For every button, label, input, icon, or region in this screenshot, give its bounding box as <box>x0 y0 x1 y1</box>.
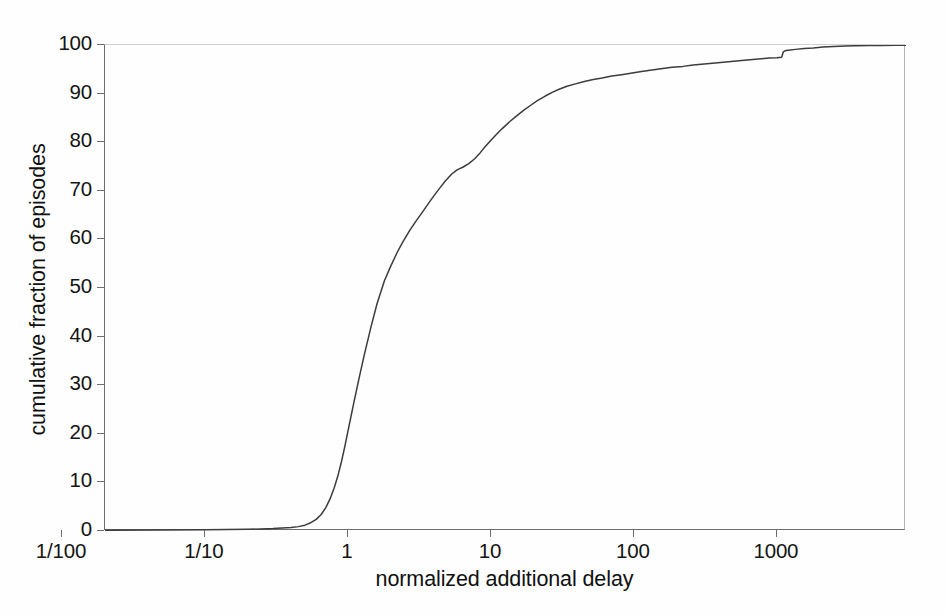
x-axis-tick-mark <box>61 530 62 537</box>
cdf-curve-path <box>105 45 906 530</box>
y-axis-tick-mark <box>97 530 104 531</box>
y-axis-tick-mark <box>97 433 104 434</box>
plot-area <box>104 44 905 530</box>
x-axis-tick-label: 1/100 <box>36 540 86 562</box>
y-axis-title: cumulative fraction of episodes <box>26 60 51 520</box>
x-axis-tick-mark <box>204 530 205 537</box>
x-axis-tick-mark <box>776 530 777 537</box>
y-axis-tick-mark <box>97 481 104 482</box>
y-axis-tick-mark <box>97 190 104 191</box>
y-axis-tick-mark <box>97 384 104 385</box>
y-axis-tick-label: 0 <box>6 519 92 540</box>
y-axis-tick-mark <box>97 336 104 337</box>
x-axis-tick-label: 100 <box>616 540 650 562</box>
y-axis-tick-mark <box>97 238 104 239</box>
x-axis-tick-mark <box>490 530 491 537</box>
x-axis-tick-label: 10 <box>479 540 501 562</box>
y-axis-tick-mark <box>97 44 104 45</box>
y-axis-tick-mark <box>97 287 104 288</box>
x-axis-tick-label: 1/10 <box>184 540 223 562</box>
y-axis-tick-mark <box>97 141 104 142</box>
x-axis-tick-label: 1000 <box>753 540 798 562</box>
x-axis-title: normalized additional delay <box>104 567 905 592</box>
x-axis-tick-mark <box>347 530 348 537</box>
y-axis-tick-label: 100 <box>6 33 92 54</box>
x-axis-tick-label: 1 <box>341 540 352 562</box>
y-axis-tick-mark <box>97 93 104 94</box>
cdf-curve-svg <box>105 45 906 531</box>
cdf-figure: 0102030405060708090100 cumulative fracti… <box>0 0 947 614</box>
x-axis-tick-mark <box>633 530 634 537</box>
